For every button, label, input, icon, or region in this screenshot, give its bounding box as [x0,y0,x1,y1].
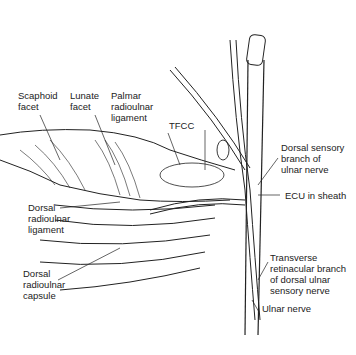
label-tfcc: TFCC [169,120,194,131]
label-palmar-radioulnar-ligament: Palmar radioulnar ligament [111,90,153,123]
label-dorsal-sensory-branch: Dorsal sensory branch of ulnar nerve [281,142,344,175]
label-transverse-retinacular-branch: Transverse retinacular branch of dorsal … [270,252,346,296]
wrist-illustration [0,0,356,355]
label-dorsal-radioulnar-capsule: Dorsal radioulnar capsule [23,268,65,301]
label-ecu-in-sheath: ECU in sheath [285,190,346,201]
label-scaphoid-facet: Scaphoid facet [18,90,58,112]
label-dorsal-radioulnar-ligament: Dorsal radioulnar ligament [28,202,70,235]
label-lunate-facet: Lunate facet [70,90,99,112]
anatomy-figure: Scaphoid facet Lunate facet Palmar radio… [0,0,356,355]
label-ulnar-nerve: Ulnar nerve [262,303,311,314]
